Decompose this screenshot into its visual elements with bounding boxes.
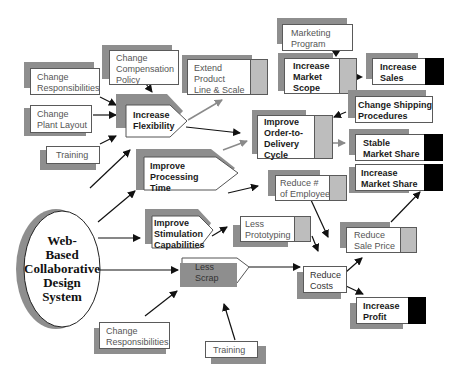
node-marketing-program[interactable]: Marketing Program [282, 24, 353, 51]
node-change-responsibilities-bottom[interactable]: Change Responsibilities [99, 322, 170, 349]
node-improve-order-to-delivery[interactable]: Improve Order-to- Delivery Cycle [257, 115, 333, 159]
node-change-responsibilities-top[interactable]: Change Responsibilities [30, 68, 100, 95]
node-reduce-sale-price[interactable]: Reduce Sale Price [346, 227, 417, 253]
node-increase-profit[interactable]: Increase Profit [356, 297, 426, 324]
node-increase-sales[interactable]: Increase Sales [372, 58, 444, 85]
node-increase-market-scope[interactable]: Increase Market Scope [284, 58, 356, 94]
node-training-left[interactable]: Training [46, 146, 100, 164]
node-less-scrap[interactable]: Less Scrap [195, 262, 219, 284]
node-less-prototyping[interactable]: Less Prototyping [240, 216, 311, 242]
center-ellipse-label: Web- Based Collaborative Design System [24, 234, 100, 304]
node-reduce-employees[interactable]: Reduce # of Employees [275, 175, 347, 201]
node-change-compensation-policy[interactable]: Change Compensation Policy [109, 50, 179, 85]
node-improve-stimulation[interactable]: Improve Stimulation Capabilities [154, 218, 205, 251]
node-increase-market-share[interactable]: Increase Market Share [355, 164, 443, 191]
node-reduce-costs[interactable]: Reduce Costs [303, 266, 347, 293]
node-improve-processing-time[interactable]: Improve Processing Time [150, 161, 199, 194]
node-training-bottom[interactable]: Training [205, 341, 258, 358]
node-change-plant-layout[interactable]: Change Plant Layout [30, 105, 92, 133]
node-increase-flexibility[interactable]: Increase Flexibility [133, 110, 175, 132]
node-stable-market-share[interactable]: Stable Market Share [355, 134, 443, 161]
node-change-shipping-procedures[interactable]: Change Shipping Procedures [355, 96, 433, 123]
node-extend-product-line[interactable]: Extend Product Line & Scale [187, 59, 267, 95]
